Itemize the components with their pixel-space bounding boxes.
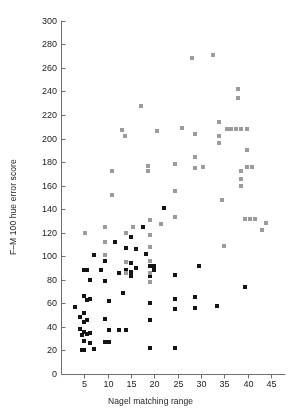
scatter-plot-figure: F–M 100 hue error score Nagel matching r… bbox=[0, 0, 300, 419]
scatter-plot-canvas bbox=[0, 0, 300, 419]
y-axis-label: F–M 100 hue error score bbox=[8, 159, 18, 255]
x-axis-label: Nagel matching range bbox=[108, 396, 193, 406]
